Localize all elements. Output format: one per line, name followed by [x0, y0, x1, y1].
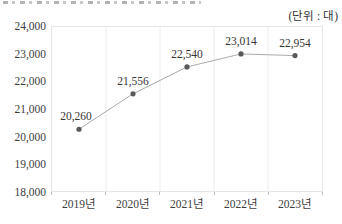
y-tick-label: 21,000: [2, 102, 46, 116]
data-point-label: 22,540: [155, 48, 219, 61]
data-point-marker: [238, 51, 243, 56]
data-point-label: 20,260: [44, 110, 108, 123]
y-tick-label: 20,000: [2, 130, 46, 144]
y-tick-label: 24,000: [2, 19, 46, 33]
y-tick-label: 19,000: [2, 157, 46, 171]
x-axis-tick: [268, 192, 269, 195]
x-axis-tick: [322, 192, 323, 195]
x-axis-tick: [159, 192, 160, 195]
data-point-marker: [76, 127, 81, 132]
data-point-marker: [292, 53, 297, 58]
chart-panel: (단위 : 대) 24,00023,00022,00021,00020,0001…: [0, 0, 342, 224]
data-point-label: 21,556: [101, 75, 165, 88]
x-axis-tick: [51, 192, 52, 195]
y-tick-label: 22,000: [2, 74, 46, 88]
data-point-label: 22,954: [263, 37, 327, 50]
y-tick-label: 18,000: [2, 185, 46, 199]
clipped-title-fragment: [3, 1, 201, 4]
data-point-marker: [130, 91, 135, 96]
data-point-marker: [184, 64, 189, 69]
x-axis-tick: [214, 192, 215, 195]
y-tick-label: 23,000: [2, 47, 46, 61]
x-axis-tick: [105, 192, 106, 195]
x-tick-label: 2023년: [263, 197, 327, 211]
unit-label: (단위 : 대): [288, 7, 338, 23]
